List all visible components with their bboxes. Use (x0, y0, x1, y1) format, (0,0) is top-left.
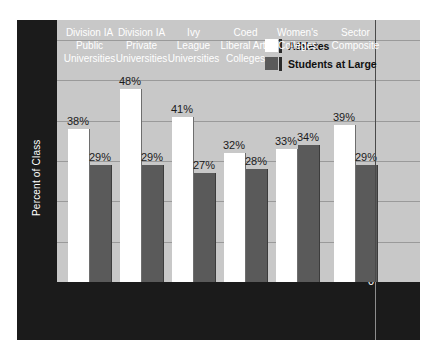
bar-students (194, 173, 216, 282)
bar-students (142, 165, 164, 282)
x-axis-label-band (17, 282, 420, 340)
category-label-line: Colleges (211, 52, 280, 65)
bar-athletes (224, 153, 246, 282)
bar-value-label: 32% (223, 140, 245, 151)
bar-athletes (68, 129, 90, 282)
bar-athletes (120, 89, 142, 282)
bar-athletes (172, 117, 194, 282)
bar-value-label: 29% (89, 152, 111, 163)
bar-value-label: 29% (141, 152, 163, 163)
bar-value-label: 41% (171, 104, 193, 115)
bar-value-label: 34% (297, 132, 319, 143)
bar-chart-figure: Percent of Class 0102030405060 38%29%48%… (17, 20, 420, 340)
bar-value-label: 38% (67, 116, 89, 127)
gridline (57, 121, 420, 122)
gridline (57, 80, 420, 81)
x-axis-category-label: SectorComposite (321, 26, 390, 52)
bar-athletes (276, 149, 298, 282)
bar-students (90, 165, 112, 282)
category-label-line: Sector (321, 26, 390, 39)
bar-value-label: 48% (119, 76, 141, 87)
bar-value-label: 39% (333, 112, 355, 123)
bar-value-label: 29% (355, 152, 377, 163)
y-axis-title: Percent of Class (31, 139, 42, 216)
bar-value-label: 27% (193, 160, 215, 171)
bar-value-label: 33% (275, 136, 297, 147)
bar-students (298, 145, 320, 282)
bar-students (246, 169, 268, 282)
legend-label-students: Students at Large (288, 58, 377, 70)
sector-separator-line-band (375, 282, 376, 340)
category-label-line: Composite (321, 39, 390, 52)
bar-value-label: 28% (245, 156, 267, 167)
legend-item-students: Students at Large (265, 56, 377, 71)
bar-athletes (334, 125, 356, 282)
